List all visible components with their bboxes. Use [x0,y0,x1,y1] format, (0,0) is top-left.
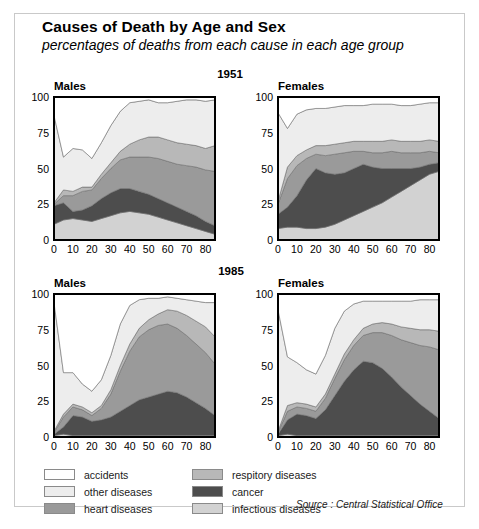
svg-text:75: 75 [37,324,49,336]
svg-text:0: 0 [43,431,49,443]
legend-item-accidents: accidents [44,467,194,482]
plot-1985-females: 025507510001020304050607080 [240,290,445,461]
svg-text:70: 70 [405,440,417,452]
svg-text:20: 20 [86,440,98,452]
svg-text:50: 50 [261,360,273,372]
legend-column-left: accidents other diseases heart diseases [44,467,194,518]
svg-text:20: 20 [86,243,98,255]
panel-1985-males: Males 025507510001020304050607080 [16,277,221,457]
panel-1951-males: Males 025507510001020304050607080 [16,80,221,260]
svg-text:50: 50 [37,163,49,175]
legend-swatch-other-diseases [44,486,75,497]
svg-text:75: 75 [37,127,49,139]
svg-text:50: 50 [143,243,155,255]
chart-page: Causes of Death by Age and Sex percentag… [0,0,479,529]
svg-text:50: 50 [367,243,379,255]
legend-swatch-respitory-diseases [192,469,223,480]
legend-swatch-heart-diseases [44,503,75,514]
svg-text:20: 20 [310,440,322,452]
svg-text:80: 80 [200,243,212,255]
svg-text:25: 25 [37,395,49,407]
svg-text:10: 10 [67,440,79,452]
svg-text:25: 25 [37,198,49,210]
svg-text:0: 0 [275,243,281,255]
year-label-1985: 1985 [201,265,261,277]
svg-text:0: 0 [51,243,57,255]
svg-text:30: 30 [329,440,341,452]
svg-text:70: 70 [181,243,193,255]
svg-text:60: 60 [162,243,174,255]
svg-text:0: 0 [43,234,49,246]
svg-text:40: 40 [124,243,136,255]
legend-item-heart-diseases: heart diseases [44,501,194,516]
svg-text:50: 50 [367,440,379,452]
plot-1985-males: 025507510001020304050607080 [16,290,221,461]
legend-column-right: respitory diseases cancer infectious dis… [192,467,362,518]
panel-1985-females: Females 025507510001020304050607080 [240,277,445,457]
svg-text:75: 75 [261,127,273,139]
heading-block: Causes of Death by Age and Sex percentag… [42,18,432,54]
legend-swatch-infectious-diseases [192,503,223,514]
svg-text:60: 60 [386,440,398,452]
svg-text:75: 75 [261,324,273,336]
legend-label-heart-diseases: heart diseases [84,503,152,515]
svg-text:70: 70 [181,440,193,452]
year-label-1951: 1951 [200,68,260,80]
svg-text:30: 30 [329,243,341,255]
plot-1951-females: 025507510001020304050607080 [240,93,445,264]
svg-text:80: 80 [424,243,436,255]
panel-title-1951-females: Females [278,80,324,92]
legend-label-accidents: accidents [84,469,128,481]
svg-text:25: 25 [261,395,273,407]
svg-text:50: 50 [261,163,273,175]
legend-label-cancer: cancer [232,486,264,498]
svg-text:40: 40 [348,440,360,452]
svg-text:80: 80 [424,440,436,452]
legend-item-cancer: cancer [192,484,362,499]
svg-text:50: 50 [37,360,49,372]
panel-title-1985-females: Females [278,277,324,289]
svg-text:100: 100 [255,93,273,103]
svg-text:40: 40 [348,243,360,255]
legend-label-respitory-diseases: respitory diseases [232,469,317,481]
panel-title-1951-males: Males [54,80,86,92]
page-subtitle: percentages of deaths from each cause in… [42,37,432,54]
legend-item-respitory-diseases: respitory diseases [192,467,362,482]
svg-text:100: 100 [255,290,273,300]
svg-text:10: 10 [291,440,303,452]
svg-text:30: 30 [105,243,117,255]
svg-text:100: 100 [31,93,49,103]
svg-text:10: 10 [291,243,303,255]
svg-text:0: 0 [267,234,273,246]
svg-text:70: 70 [405,243,417,255]
legend-swatch-accidents [44,469,75,480]
plot-1951-males: 025507510001020304050607080 [16,93,221,264]
source-note: Source : Central Statistical Office [296,499,443,510]
panel-title-1985-males: Males [54,277,86,289]
legend-item-other-diseases: other diseases [44,484,194,499]
legend-swatch-cancer [192,486,223,497]
svg-text:80: 80 [200,440,212,452]
svg-text:60: 60 [386,243,398,255]
svg-text:20: 20 [310,243,322,255]
svg-text:10: 10 [67,243,79,255]
svg-text:30: 30 [105,440,117,452]
svg-text:0: 0 [267,431,273,443]
svg-text:60: 60 [162,440,174,452]
svg-text:25: 25 [261,198,273,210]
svg-text:0: 0 [275,440,281,452]
legend-label-other-diseases: other diseases [84,486,152,498]
svg-text:100: 100 [31,290,49,300]
page-title: Causes of Death by Age and Sex [42,18,432,36]
svg-text:40: 40 [124,440,136,452]
panel-1951-females: Females 025507510001020304050607080 [240,80,445,260]
svg-text:0: 0 [51,440,57,452]
svg-text:50: 50 [143,440,155,452]
